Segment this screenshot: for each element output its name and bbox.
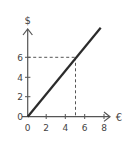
x-tick-label: 4 [62, 123, 68, 133]
chart: 0 2 4 6 8 0 2 4 6 $ € [0, 0, 137, 153]
y-tick-label: 2 [17, 92, 23, 102]
x-tick-label: 6 [82, 123, 88, 133]
x-tick-label: 8 [101, 123, 107, 133]
x-tick-label: 2 [43, 123, 49, 133]
y-tick-label: 0 [17, 112, 23, 122]
x-tick-label: 0 [25, 123, 31, 133]
y-tick-label: 4 [17, 73, 23, 83]
x-axis-label: € [116, 112, 122, 123]
series-line [28, 28, 101, 117]
y-axis-label: $ [25, 15, 31, 26]
y-tick-label: 6 [17, 53, 23, 63]
